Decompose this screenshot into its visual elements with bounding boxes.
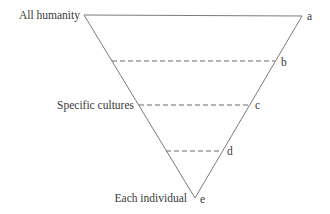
point-label-e: e [200, 193, 205, 205]
label-each-individual: Each individual [115, 192, 188, 204]
point-label-c: c [255, 99, 260, 111]
inverted-triangle-diagram: All humanity Specific cultures Each indi… [0, 0, 330, 214]
top-edge [84, 15, 302, 16]
point-label-a: a [307, 10, 312, 22]
label-specific-cultures: Specific cultures [57, 99, 134, 112]
label-all-humanity: All humanity [19, 9, 80, 22]
point-label-b: b [281, 56, 287, 68]
point-label-d: d [227, 145, 233, 157]
right-edge [195, 16, 302, 198]
